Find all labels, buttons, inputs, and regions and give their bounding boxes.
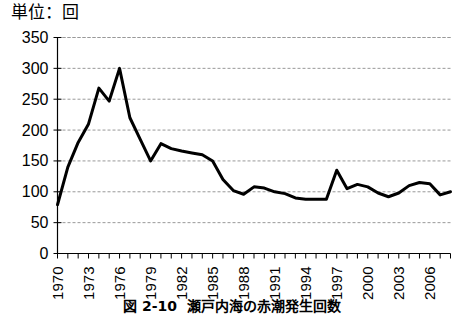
y-axis-tick-labels: 050100150200250300350 bbox=[22, 29, 49, 262]
svg-text:0: 0 bbox=[40, 245, 49, 262]
svg-text:350: 350 bbox=[22, 29, 49, 46]
svg-text:1991: 1991 bbox=[266, 267, 283, 300]
plot-area: 050100150200250300350 197019731976197919… bbox=[0, 0, 464, 316]
svg-text:300: 300 bbox=[22, 60, 49, 77]
caption-text: 瀬戸内海の赤潮発生回数 bbox=[187, 298, 341, 314]
svg-text:1970: 1970 bbox=[49, 267, 66, 300]
axis-lines bbox=[54, 38, 451, 254]
svg-text:50: 50 bbox=[31, 214, 49, 231]
svg-text:1976: 1976 bbox=[111, 267, 128, 300]
svg-text:2006: 2006 bbox=[421, 267, 438, 300]
gridlines bbox=[58, 38, 451, 254]
figure-caption: 図 2-10瀬戸内海の赤潮発生回数 bbox=[0, 297, 464, 316]
svg-text:1997: 1997 bbox=[328, 267, 345, 300]
svg-text:2000: 2000 bbox=[359, 267, 376, 300]
svg-text:250: 250 bbox=[22, 91, 49, 108]
figure-container: 単位：回 050100150200250300350 1970197319761… bbox=[0, 0, 464, 316]
line-chart: 050100150200250300350 197019731976197919… bbox=[0, 0, 464, 316]
svg-text:1985: 1985 bbox=[204, 267, 221, 300]
svg-text:1973: 1973 bbox=[80, 267, 97, 300]
svg-text:1979: 1979 bbox=[142, 267, 159, 300]
svg-text:2003: 2003 bbox=[390, 267, 407, 300]
data-series-line bbox=[58, 68, 451, 204]
caption-number: 図 2-10 bbox=[123, 298, 177, 314]
x-axis-ticks bbox=[58, 254, 451, 259]
svg-text:1982: 1982 bbox=[173, 267, 190, 300]
x-axis-tick-labels: 1970197319761979198219851988199119941997… bbox=[49, 267, 438, 300]
svg-text:1988: 1988 bbox=[235, 267, 252, 300]
svg-text:1994: 1994 bbox=[297, 267, 314, 300]
svg-text:150: 150 bbox=[22, 152, 49, 169]
svg-text:100: 100 bbox=[22, 183, 49, 200]
svg-text:200: 200 bbox=[22, 122, 49, 139]
